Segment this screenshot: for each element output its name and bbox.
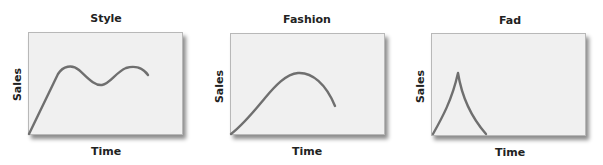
style-x-axis-label: Time xyxy=(66,145,146,158)
fad-panel: Fad Sales Time xyxy=(400,0,603,165)
fad-x-axis-label: Time xyxy=(470,146,550,159)
fad-curve xyxy=(400,0,603,165)
fashion-panel: Fashion Sales Time xyxy=(200,0,400,165)
style-curve xyxy=(0,0,200,165)
fashion-curve xyxy=(200,0,400,165)
style-panel: Style Sales Time xyxy=(0,0,200,165)
fashion-x-axis-label: Time xyxy=(267,145,347,158)
